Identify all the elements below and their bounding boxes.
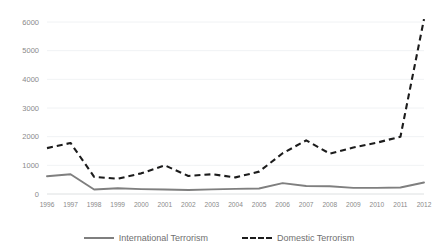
x-tick-label: 2009 bbox=[346, 201, 361, 208]
y-tick-label: 0 bbox=[35, 190, 39, 199]
x-tick-label: 1999 bbox=[110, 201, 125, 208]
legend-label-domestic: Domestic Terrorism bbox=[277, 233, 354, 243]
x-tick-label: 2007 bbox=[299, 201, 314, 208]
y-tick-label: 1000 bbox=[22, 161, 39, 170]
line-chart: 0100020003000400050006000 19961997199819… bbox=[0, 0, 438, 249]
chart-legend: International Terrorism Domestic Terrori… bbox=[0, 233, 438, 243]
x-tick-label: 2002 bbox=[181, 201, 196, 208]
gridlines bbox=[47, 22, 424, 194]
x-tick-label: 2001 bbox=[157, 201, 172, 208]
x-tick-label: 1997 bbox=[63, 201, 78, 208]
dashed-line-swatch bbox=[242, 237, 272, 239]
chart-plot-area: 0100020003000400050006000 19961997199819… bbox=[0, 0, 438, 249]
y-tick-label: 6000 bbox=[22, 18, 39, 27]
x-tick-label: 1998 bbox=[87, 201, 102, 208]
solid-line-swatch bbox=[84, 237, 114, 239]
x-tick-label: 2008 bbox=[322, 201, 337, 208]
y-tick-label: 3000 bbox=[22, 104, 39, 113]
x-tick-label: 2010 bbox=[370, 201, 385, 208]
legend-label-international: International Terrorism bbox=[119, 233, 208, 243]
y-axis-tick-labels: 0100020003000400050006000 bbox=[22, 18, 39, 199]
series-line-domestic bbox=[47, 19, 424, 179]
legend-item-domestic[interactable]: Domestic Terrorism bbox=[242, 233, 354, 243]
x-tick-label: 2012 bbox=[417, 201, 432, 208]
y-tick-label: 5000 bbox=[22, 46, 39, 55]
y-tick-label: 2000 bbox=[22, 132, 39, 141]
x-axis-tick-labels: 1996199719981999200020012002200320042005… bbox=[40, 201, 432, 208]
legend-item-international[interactable]: International Terrorism bbox=[84, 233, 208, 243]
x-tick-label: 2006 bbox=[275, 201, 290, 208]
x-tick-label: 2005 bbox=[252, 201, 267, 208]
x-tick-label: 2003 bbox=[205, 201, 220, 208]
x-tick-label: 2000 bbox=[134, 201, 149, 208]
data-series bbox=[47, 19, 424, 190]
x-tick-label: 2004 bbox=[228, 201, 243, 208]
x-tick-label: 2011 bbox=[393, 201, 408, 208]
x-tick-label: 1996 bbox=[40, 201, 55, 208]
y-tick-label: 4000 bbox=[22, 75, 39, 84]
